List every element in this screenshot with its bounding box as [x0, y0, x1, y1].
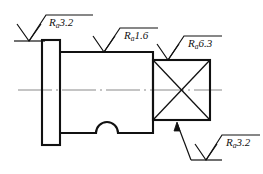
roughness-number-1: 3.2: [58, 16, 73, 28]
roughness-value-4: Ra3.2: [225, 136, 251, 150]
roughness-number-4: 3.2: [235, 136, 250, 148]
roughness-number-2: 1.6: [134, 29, 148, 41]
roughness-number-3: 6.3: [198, 37, 212, 49]
engineering-drawing-canvas: Ra3.2 Ra1.6 Ra6.3 Ra3.2: [0, 0, 263, 174]
roughness-value-3: Ra6.3: [187, 37, 213, 51]
roughness-value-2: Ra1.6: [123, 29, 149, 43]
roughness-value-1: Ra3.2: [48, 16, 74, 30]
